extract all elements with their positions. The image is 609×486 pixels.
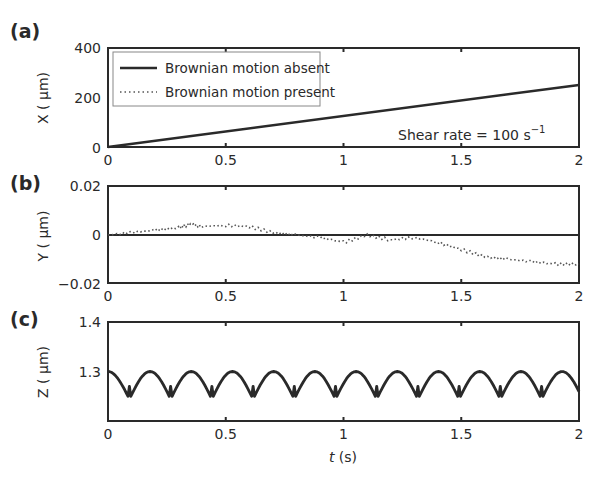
x-tick-label: 0 <box>104 152 113 168</box>
x-tick-label: 1 <box>339 152 348 168</box>
panel-b-ylabel: Y ( µm) <box>35 211 51 263</box>
x-tick-label: 1 <box>339 426 348 442</box>
panel-a-ylabel: X ( µm) <box>35 72 51 124</box>
figure-canvas: (a) (b) (c) 400 200 0 X ( µm) 00.511.52 … <box>0 0 609 486</box>
panel-c-ylabel: Z ( µm) <box>35 346 51 398</box>
panel-c-line <box>108 372 579 397</box>
panel-c-ytick-mid: 1.3 <box>79 364 101 380</box>
x-tick-label: 1.5 <box>450 426 472 442</box>
legend-label-absent: Brownian motion absent <box>165 60 330 76</box>
panel-c-ytick-top: 1.4 <box>79 314 101 330</box>
panel-a-axes: 400 200 0 X ( µm) 00.511.52 Brownian mot… <box>35 40 583 168</box>
x-axis-label: t (s) <box>329 449 357 465</box>
panel-b-axes: 0.02 0 −0.02 Y ( µm) 00.511.52 <box>35 178 583 304</box>
x-tick-label: 2 <box>575 426 584 442</box>
x-tick-label: 2 <box>575 288 584 304</box>
panel-a-ytick-200: 200 <box>74 90 101 106</box>
panel-a-label: (a) <box>10 20 40 42</box>
panel-b-label: (b) <box>10 172 41 194</box>
legend-label-present: Brownian motion present <box>165 84 335 100</box>
x-tick-label: 0 <box>104 426 113 442</box>
x-tick-label: 1.5 <box>450 152 472 168</box>
x-tick-label: 1 <box>339 288 348 304</box>
shear-rate-annotation: Shear rate = 100 s−1 <box>398 124 545 143</box>
x-tick-label: 0.5 <box>215 426 237 442</box>
panel-b-line-present <box>108 224 579 266</box>
panel-a-ytick-400: 400 <box>74 40 101 56</box>
x-tick-label: 0.5 <box>215 152 237 168</box>
x-tick-label: 0 <box>104 288 113 304</box>
panel-b-ytick-top: 0.02 <box>70 178 101 194</box>
panel-c-label: (c) <box>10 308 39 330</box>
panel-b-ytick-bottom: −0.02 <box>58 276 101 292</box>
x-tick-label: 2 <box>575 152 584 168</box>
panel-a-ytick-0: 0 <box>92 140 101 156</box>
x-tick-label: 1.5 <box>450 288 472 304</box>
x-tick-label: 0.5 <box>215 288 237 304</box>
panel-b-ytick-zero: 0 <box>92 227 101 243</box>
panel-c-axes: 1.4 1.3 Z ( µm) 00.511.52 <box>35 314 583 442</box>
